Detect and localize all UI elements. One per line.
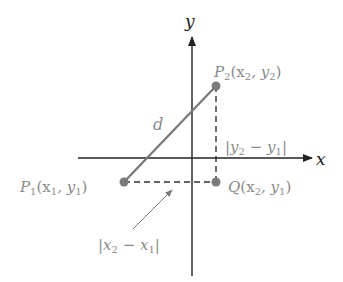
point-p2 [212,82,221,91]
distance-diagram: x y P2(x2, y2) P1(x1, y1) Q(x2, y1) d |y… [0,0,343,282]
distance-segment [124,86,216,182]
distance-label: d [153,115,163,134]
y-axis-label: y [184,11,195,31]
horizontal-difference-label: |x2 − x1| [98,236,160,255]
point-p1 [120,178,129,187]
x-axis-label: x [316,149,326,169]
p2-label: P2(x2, y2) [213,63,281,82]
q-label: Q(x2, y1) [228,178,291,197]
pointer-arrow [133,190,172,229]
p1-label: P1(x1, y1) [19,178,87,197]
point-q [212,178,221,187]
vertical-difference-label: |y2 − y1| [225,138,287,157]
